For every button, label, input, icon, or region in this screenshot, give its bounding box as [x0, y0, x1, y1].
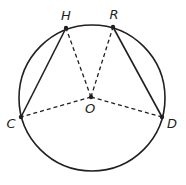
label-d: D [167, 116, 177, 131]
circle-diagram: H R O C D [0, 0, 186, 185]
point-c [19, 115, 23, 119]
label-c: C [6, 116, 16, 131]
label-h: H [61, 8, 71, 23]
label-r: R [109, 7, 118, 22]
radius-or [91, 27, 113, 97]
radius-od [91, 97, 162, 117]
point-o [89, 95, 93, 99]
point-h [64, 26, 68, 30]
point-d [160, 115, 164, 119]
label-o: O [85, 101, 95, 116]
chord-ch [21, 28, 66, 117]
radius-oc [21, 97, 91, 117]
radius-oh [66, 28, 91, 97]
point-r [111, 25, 115, 29]
